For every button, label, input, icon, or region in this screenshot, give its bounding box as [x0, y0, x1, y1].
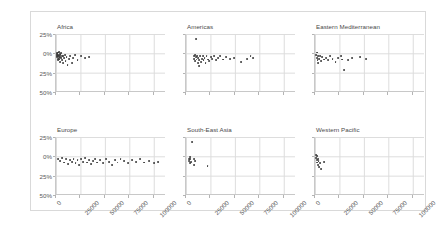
panel-title: Western Pacific: [316, 126, 360, 133]
data-point: [77, 59, 79, 61]
y-tick: [312, 176, 315, 177]
data-point: [131, 159, 133, 161]
y-tick: [312, 156, 315, 157]
x-tick-label: 100000: [417, 199, 437, 219]
data-point: [332, 58, 334, 60]
data-point: [99, 159, 101, 161]
data-point: [96, 162, 98, 164]
data-point: [153, 162, 155, 164]
data-point: [250, 55, 252, 57]
data-point: [77, 159, 79, 161]
x-tick: [363, 195, 364, 198]
data-point: [213, 55, 215, 57]
data-point: [229, 58, 231, 60]
data-point: [222, 59, 224, 61]
y-tick-label: 25%: [40, 134, 52, 141]
y-tick-label: 25%: [40, 31, 52, 38]
data-point: [320, 60, 322, 62]
facet-panel: Europe25%0%25%50%0250005000075000100000: [55, 137, 165, 195]
y-tick: [53, 176, 56, 177]
facet-panel: Western Pacific0250005000075000100000: [314, 137, 424, 195]
data-point: [63, 162, 65, 164]
x-tick: [128, 195, 129, 198]
data-point: [117, 162, 119, 164]
x-tick-label: 100000: [288, 199, 308, 219]
x-tick: [128, 92, 129, 95]
facet-panel: Africa25%0%25%50%: [55, 34, 165, 92]
data-point: [88, 159, 90, 161]
data-point: [67, 163, 69, 165]
y-tick: [53, 53, 56, 54]
x-tick: [338, 92, 339, 95]
data-point: [347, 59, 349, 61]
x-tick: [258, 92, 259, 95]
data-point: [194, 160, 196, 162]
x-tick-label: 50000: [238, 199, 255, 216]
data-point: [335, 61, 337, 63]
data-point: [65, 60, 67, 62]
data-point: [359, 56, 361, 58]
data-point: [67, 64, 69, 66]
plot-area: [314, 34, 424, 92]
data-point: [105, 158, 107, 160]
y-tick: [312, 137, 315, 138]
data-point: [157, 161, 159, 163]
data-point: [135, 161, 137, 163]
x-tick-label: 75000: [132, 199, 149, 216]
data-point: [120, 158, 122, 160]
y-tick: [183, 156, 186, 157]
x-tick-label: 0: [314, 199, 321, 206]
panel-title: Europe: [57, 126, 77, 133]
x-tick: [104, 195, 105, 198]
data-point: [200, 61, 202, 63]
data-point: [191, 141, 193, 143]
data-point: [72, 57, 74, 59]
x-tick-label: 25000: [213, 199, 230, 216]
x-tick: [338, 195, 339, 198]
x-tick-label: 25000: [342, 199, 359, 216]
data-point: [62, 62, 64, 64]
plot-area: [55, 137, 165, 195]
data-point: [240, 61, 242, 63]
x-tick: [55, 195, 56, 198]
x-tick-label: 75000: [262, 199, 279, 216]
plot-area: [314, 137, 424, 195]
data-point: [323, 161, 325, 163]
data-point: [233, 57, 235, 59]
y-tick: [183, 176, 186, 177]
data-point: [143, 162, 145, 164]
x-tick: [55, 92, 56, 95]
data-point: [139, 158, 141, 160]
x-tick: [153, 195, 154, 198]
x-tick: [283, 195, 284, 198]
y-tick: [183, 73, 186, 74]
data-point: [94, 158, 96, 160]
x-tick: [314, 92, 315, 95]
x-tick: [258, 195, 259, 198]
data-point: [317, 62, 319, 64]
data-point: [316, 52, 318, 54]
x-tick: [209, 195, 210, 198]
x-tick: [387, 92, 388, 95]
data-point: [341, 59, 343, 61]
x-tick: [153, 92, 154, 95]
data-point: [365, 58, 367, 60]
y-tick: [183, 137, 186, 138]
data-point: [92, 160, 94, 162]
data-point: [319, 162, 321, 164]
data-point: [351, 57, 353, 59]
data-point: [75, 162, 77, 164]
x-tick: [283, 92, 284, 95]
x-tick-label: 0: [55, 199, 62, 206]
x-tick: [363, 92, 364, 95]
x-tick: [234, 195, 235, 198]
panel-title: Americas: [187, 23, 213, 30]
facet-panel: Eastern Mediterranean: [314, 34, 424, 92]
data-point: [82, 161, 84, 163]
data-point: [327, 59, 329, 61]
y-tick: [183, 53, 186, 54]
data-point: [225, 56, 227, 58]
x-tick-label: 0: [185, 199, 192, 206]
data-point: [84, 157, 86, 159]
data-point: [123, 160, 125, 162]
